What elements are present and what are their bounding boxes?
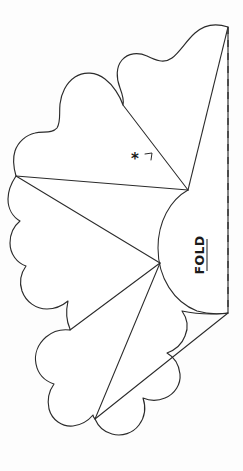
fold-label: FOLD <box>192 235 207 274</box>
fold-label-group: FOLD <box>192 235 207 274</box>
petal-outline-path <box>8 25 228 435</box>
pattern-diagram: * FOLD <box>0 0 243 471</box>
asterisk-mark: * <box>131 150 139 168</box>
pattern-sheet: * FOLD <box>0 0 243 471</box>
